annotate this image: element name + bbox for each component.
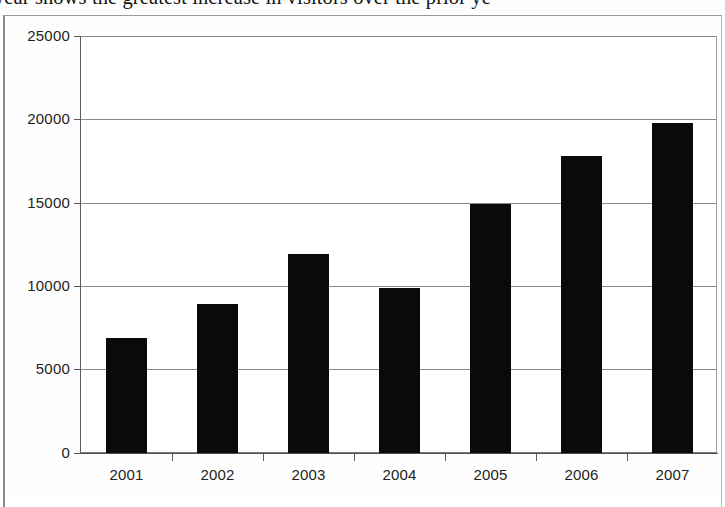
x-axis-label-2003: 2003: [269, 466, 349, 483]
y-tick-20000: [74, 119, 81, 120]
x-tick-1: [172, 454, 173, 461]
bar-2004: [379, 288, 420, 453]
y-axis-label-15000: 15000: [0, 194, 70, 211]
x-tick-3: [354, 454, 355, 461]
x-axis-label-2006: 2006: [542, 466, 622, 483]
x-tick-2: [263, 454, 264, 461]
bar-2007: [652, 123, 693, 453]
y-axis-label-5000: 5000: [0, 360, 70, 377]
bar-2005: [470, 204, 511, 452]
x-tick-4: [445, 454, 446, 461]
y-tick-5000: [74, 369, 81, 370]
gridline-20000: [80, 119, 717, 120]
y-axis-label-0: 0: [0, 444, 70, 461]
bar-2002: [197, 304, 238, 452]
y-axis-label-25000: 25000: [0, 27, 70, 44]
x-axis-label-2001: 2001: [87, 466, 167, 483]
y-tick-25000: [74, 36, 81, 37]
x-axis-label-2007: 2007: [633, 466, 713, 483]
x-tick-5: [536, 454, 537, 461]
gridline-15000: [80, 203, 717, 204]
y-tick-0: [74, 453, 81, 454]
bar-2003: [288, 254, 329, 452]
x-axis-label-2005: 2005: [451, 466, 531, 483]
x-axis-line: [80, 453, 718, 454]
y-tick-15000: [74, 203, 81, 204]
bar-2006: [561, 156, 602, 453]
y-axis-label-10000: 10000: [0, 277, 70, 294]
bar-2001: [106, 338, 147, 453]
gridline-25000: [80, 36, 717, 37]
y-axis-label-20000: 20000: [0, 110, 70, 127]
x-axis-label-2004: 2004: [360, 466, 440, 483]
x-tick-6: [627, 454, 628, 461]
y-axis-line: [80, 36, 81, 454]
y-tick-10000: [74, 286, 81, 287]
x-axis-label-2002: 2002: [178, 466, 258, 483]
